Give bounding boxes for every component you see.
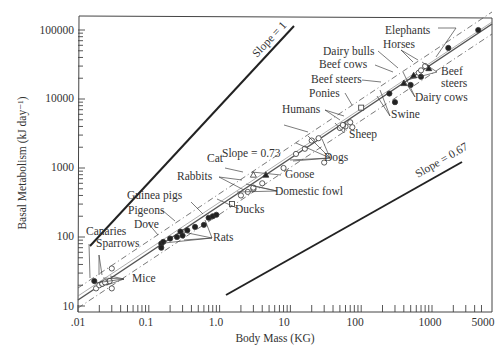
label-beef-steers-right-1: Beef <box>441 65 463 77</box>
data-point-swine <box>387 91 392 96</box>
label-domestic-fowl: Domestic fowl <box>275 185 343 197</box>
x-axis-labels: .01 0.1 1.0 10 100 1000 5000 <box>71 316 495 328</box>
data-point-humans <box>348 120 353 125</box>
label-swine: Swine <box>391 108 420 120</box>
data-point-rats <box>214 212 219 217</box>
label-ponies: Ponies <box>309 87 340 99</box>
y-tick-label: 100 <box>57 230 75 242</box>
label-dogs: Dogs <box>324 151 349 164</box>
x-tick-label: 1000 <box>419 316 442 328</box>
label-dove: Dove <box>134 218 159 230</box>
data-point-domestic-fowl <box>260 181 265 186</box>
label-cat: Cat <box>207 152 224 164</box>
data-point-elephants <box>476 27 481 32</box>
data-point-dogs <box>293 151 298 156</box>
label-goose: Goose <box>285 168 314 180</box>
x-axis-title: Body Mass (KG) <box>235 332 314 345</box>
data-point-elephants <box>446 45 451 50</box>
y-tick-label: 10000 <box>45 92 74 104</box>
label-beef-steers-left: Beef steers <box>311 73 362 85</box>
data-point-rats <box>168 236 173 241</box>
y-axis-labels: 10 100 1000 10000 100000 <box>40 24 75 312</box>
data-point-sheep <box>340 122 345 127</box>
data-point-domestic-fowl <box>238 193 243 198</box>
data-point-dogs <box>316 136 321 141</box>
slope-1-label: Slope = 1 <box>250 19 290 60</box>
y-tick-label: 100000 <box>40 24 75 36</box>
data-point-rats <box>180 233 185 238</box>
data-point-sparrows <box>102 280 107 285</box>
label-rats: Rats <box>213 231 234 243</box>
x-tick-label: 10 <box>278 316 290 328</box>
label-dairy-bulls: Dairy bulls <box>323 45 375 58</box>
y-axis-title: Basal Metabolism (kJ day⁻¹) <box>16 96 29 229</box>
data-point-rats <box>159 245 164 250</box>
x-tick-label: 100 <box>346 316 364 328</box>
label-sheep: Sheep <box>349 128 377 141</box>
label-elephants: Elephants <box>385 24 431 37</box>
label-canaries: Canaries <box>86 225 127 237</box>
label-ducks: Ducks <box>235 203 265 215</box>
label-sparrows: Sparrows <box>96 237 140 250</box>
label-mice: Mice <box>132 272 156 284</box>
label-dairy-cows: Dairy cows <box>415 91 468 104</box>
x-axis-ticks <box>78 305 481 312</box>
data-point-rats <box>174 234 179 239</box>
data-point-swine <box>392 100 397 105</box>
slope-073-label: Slope = 0.73 <box>222 147 281 160</box>
data-point-horses <box>418 68 423 73</box>
label-beef-cows: Beef cows <box>319 58 368 70</box>
y-tick-label: 10 <box>63 300 75 312</box>
data-point-guinea-pigs <box>201 222 206 227</box>
x-tick-label: 1.0 <box>209 316 224 328</box>
x-tick-label: 0.1 <box>139 316 154 328</box>
data-point-guinea-pigs <box>192 224 197 229</box>
label-rabbits: Rabbits <box>177 170 213 182</box>
label-pigeons: Pigeons <box>128 204 165 217</box>
data-point-dogs <box>309 138 314 143</box>
data-point-ponies <box>359 105 364 110</box>
label-guinea-pigs: Guinea pigs <box>127 189 183 202</box>
x-tick-label: .01 <box>71 316 86 328</box>
data-point-rats <box>161 239 166 244</box>
label-horses: Horses <box>383 38 415 50</box>
data-point-mice <box>109 286 114 291</box>
upper-confidence-line <box>78 12 492 288</box>
label-beef-steers-right-2: steers <box>441 77 468 89</box>
label-humans: Humans <box>282 103 321 115</box>
data-point-mice <box>109 266 114 271</box>
x-tick-label: 5000 <box>472 316 495 328</box>
data-point-pigeons <box>185 228 190 233</box>
metabolism-chart: 10 100 1000 10000 100000 .01 0.1 1.0 10 … <box>0 0 501 360</box>
y-tick-label: 1000 <box>51 161 74 173</box>
